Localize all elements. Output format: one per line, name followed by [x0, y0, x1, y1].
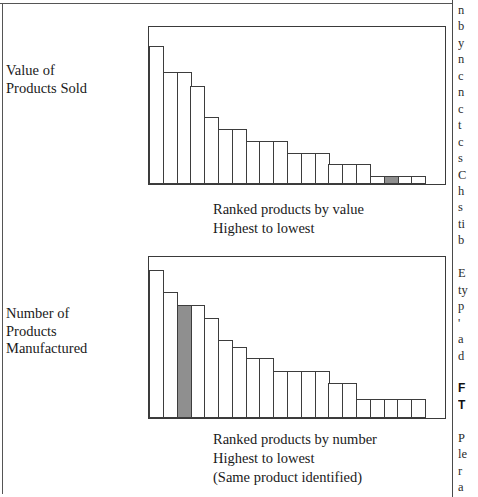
- bar-highlighted: [384, 176, 399, 184]
- body-text-line: n: [458, 84, 478, 100]
- body-text-line: ty: [458, 282, 478, 298]
- column-divider: [452, 0, 453, 497]
- body-text-line: s: [458, 150, 478, 166]
- body-text-line: P: [458, 430, 478, 446]
- panel-2-plot-frame: [148, 256, 446, 419]
- body-text-line: a: [458, 479, 478, 495]
- panel-1-plot-frame: [148, 26, 446, 185]
- body-text-line: ti: [458, 216, 478, 232]
- body-text-line: b: [458, 232, 478, 248]
- body-text-line: T: [458, 397, 478, 413]
- panel-2-caption: Ranked products by number Highest to low…: [213, 430, 458, 487]
- body-text-line: n: [458, 2, 478, 18]
- body-text-paragraph-b: Plerac: [458, 430, 478, 495]
- body-text-heading-fragment: FT: [458, 380, 478, 413]
- body-text-gap-2: [458, 364, 478, 380]
- panel-1-caption: Ranked products by value Highest to lowe…: [213, 200, 453, 238]
- panel-2-plot-area: [149, 257, 445, 418]
- body-text-line: c: [458, 101, 478, 117]
- panel-1-axis-title: Value of Products Sold: [6, 62, 141, 97]
- body-text-line: p: [458, 298, 478, 314]
- body-text-line: c: [458, 134, 478, 150]
- body-text-line: c: [458, 68, 478, 84]
- body-text-line: h: [458, 183, 478, 199]
- body-text-top-fragment: nbyncnctcsChstib: [458, 2, 478, 249]
- body-text-line: C: [458, 167, 478, 183]
- figure-page: Value of Products Sold Ranked products b…: [0, 0, 478, 497]
- panel-2-bars: [149, 257, 425, 418]
- body-text-line: ': [458, 315, 478, 331]
- body-text-paragraph-a: Etyp'ad: [458, 265, 478, 364]
- panel-1-bars: [149, 27, 425, 184]
- body-text-line: r: [458, 463, 478, 479]
- panel-1-plot-area: [149, 27, 445, 184]
- bar: [411, 399, 426, 418]
- panel-2-axis-title: Number of Products Manufactured: [6, 305, 141, 358]
- body-text-line: le: [458, 446, 478, 462]
- body-text-line: t: [458, 117, 478, 133]
- body-text-gap-3: [458, 413, 478, 429]
- body-text-line: a: [458, 331, 478, 347]
- body-text-line: d: [458, 348, 478, 364]
- body-text-column: nbyncnctcsChstib Etyp'ad FT Plerac: [458, 2, 478, 495]
- body-text-line: s: [458, 199, 478, 215]
- body-text-line: F: [458, 380, 478, 396]
- body-text-line: y: [458, 35, 478, 51]
- body-text-line: n: [458, 51, 478, 67]
- body-text-line: b: [458, 18, 478, 34]
- bar-highlighted: [177, 305, 192, 418]
- panel-number-of-products-manufactured: Number of Products Manufactured Ranked p…: [0, 248, 452, 497]
- panel-value-of-products-sold: Value of Products Sold Ranked products b…: [0, 0, 452, 248]
- body-text-gap-1: [458, 249, 478, 265]
- bar: [411, 176, 426, 184]
- body-text-line: E: [458, 265, 478, 281]
